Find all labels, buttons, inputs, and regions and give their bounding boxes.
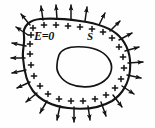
field-arrow-icon bbox=[128, 62, 143, 63]
electrostatics-figure: E=0 S bbox=[0, 0, 155, 128]
cavity-boundary bbox=[57, 47, 112, 87]
interior-field-label: E=0 bbox=[34, 30, 54, 42]
gaussian-surface-label: S bbox=[87, 31, 93, 42]
figure-canvas bbox=[0, 0, 155, 128]
field-arrow-icon bbox=[56, 5, 57, 19]
